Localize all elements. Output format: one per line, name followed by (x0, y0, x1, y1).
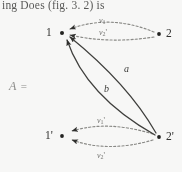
node-label-2-text: 2 (166, 27, 172, 39)
solid-edge-a (70, 37, 156, 133)
node-label-2: 2 (166, 28, 172, 40)
node-label-1p-prime: ' (51, 129, 53, 141)
node-label-1-text: 1 (46, 26, 52, 38)
node-dot-1-prime[interactable] (60, 134, 64, 138)
edge-label-v1p-prime: ' (104, 116, 105, 125)
figure-page: ing Does (fig. 3. 2) is A= 1 (0, 0, 182, 172)
edge-label-v2p-prime: ' (106, 28, 107, 37)
node-label-1-prime: 1' (45, 130, 53, 142)
node-label-2p-prime: ' (172, 130, 174, 142)
node-label-2-prime: 2' (166, 131, 174, 143)
dashed-edge-v2p-top (70, 35, 154, 40)
arc-label-b: b (104, 84, 109, 94)
solid-edge-b (67, 40, 155, 135)
node-dot-1[interactable] (60, 31, 64, 35)
arc-label-a: a (124, 64, 129, 74)
edge-label-v1: v1 (99, 17, 106, 25)
dashed-edge-v1p (72, 126, 153, 134)
dashed-edge-v1 (70, 22, 154, 32)
graph-canvas (0, 0, 182, 172)
edge-label-v2-prime-top: v2' (99, 29, 107, 37)
node-label-1: 1 (46, 27, 52, 39)
node-dot-2[interactable] (157, 32, 161, 36)
edge-label-v2p2-prime: ' (104, 151, 105, 160)
edge-label-v1-prime: v1' (97, 117, 105, 125)
dashed-edge-v2p-bottom (72, 140, 153, 147)
edge-label-v1-sub: 1 (103, 19, 106, 25)
node-dot-2-prime[interactable] (157, 135, 161, 139)
edge-label-v2-prime-bottom: v2' (97, 152, 105, 160)
